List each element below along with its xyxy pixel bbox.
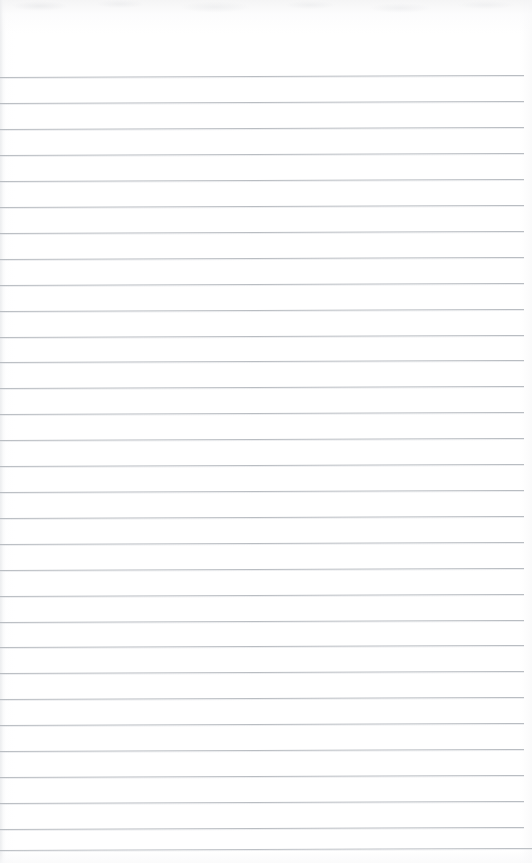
notepad-page	[0, 0, 532, 863]
writing-area[interactable]	[0, 77, 524, 863]
